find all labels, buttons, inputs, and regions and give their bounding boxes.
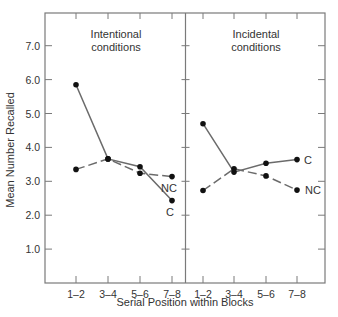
incidental-series: [200, 121, 300, 193]
series-line-nc: [203, 169, 297, 191]
series-label-intentional-nc: NC: [161, 182, 177, 194]
serial-position-chart: 1.02.03.04.05.06.07.0 1–23–45–67–81–23–4…: [0, 0, 338, 317]
data-point-nc: [169, 174, 175, 180]
data-point-nc: [263, 173, 269, 179]
series-line-c: [76, 85, 172, 201]
x-tick-label: 5–6: [257, 288, 275, 300]
series-line-nc: [76, 159, 172, 177]
y-tick-label: 1.0: [25, 243, 40, 255]
y-tick-label: 2.0: [25, 209, 40, 221]
y-tick-label: 4.0: [25, 141, 40, 153]
data-point-nc: [200, 188, 206, 194]
panel-intentional: Intentional conditions: [73, 28, 175, 203]
data-point-c: [73, 82, 79, 88]
x-axis-title: Serial Position within Blocks: [117, 296, 254, 308]
data-point-nc: [105, 156, 111, 162]
x-axis-ticks: 1–23–45–67–81–23–45–67–8: [67, 13, 306, 300]
panel-title-intentional-line1: Intentional: [91, 28, 142, 40]
data-point-c: [263, 161, 269, 167]
panel-incidental: Incidental conditions: [200, 28, 300, 193]
data-point-nc: [137, 170, 143, 176]
y-axis-title: Mean Number Recalled: [4, 92, 16, 208]
y-tick-label: 7.0: [25, 40, 40, 52]
data-point-c: [169, 198, 175, 204]
intentional-series: [73, 82, 175, 204]
panel-title-incidental-line2: conditions: [231, 41, 281, 53]
series-line-c: [203, 124, 297, 172]
data-point-nc: [231, 166, 237, 172]
y-axis-ticks: 1.02.03.04.05.06.07.0: [25, 40, 325, 255]
data-point-nc: [294, 187, 300, 193]
x-tick-label: 1–2: [67, 288, 85, 300]
panel-title-intentional-line2: conditions: [91, 41, 141, 53]
series-label-incidental-c: C: [304, 154, 312, 166]
x-tick-label: 7–8: [288, 288, 306, 300]
data-point-nc: [73, 167, 79, 173]
data-point-c: [200, 121, 206, 127]
series-label-incidental-nc: NC: [305, 184, 321, 196]
y-tick-label: 5.0: [25, 108, 40, 120]
data-point-c: [294, 157, 300, 163]
y-tick-label: 3.0: [25, 175, 40, 187]
data-point-c: [137, 164, 143, 170]
x-tick-label: 3–4: [99, 288, 117, 300]
panel-title-incidental-line1: Incidental: [232, 28, 279, 40]
series-label-intentional-c: C: [166, 206, 174, 218]
plot-frame: [45, 13, 325, 283]
y-tick-label: 6.0: [25, 74, 40, 86]
